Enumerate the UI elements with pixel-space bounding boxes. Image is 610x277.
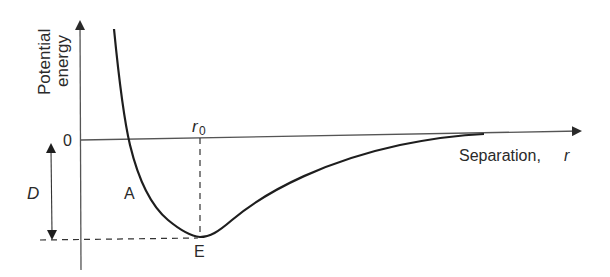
y-axis-label: Potential energy <box>35 29 72 95</box>
r0-label: r <box>192 117 199 136</box>
depth-arrow-bottom-head <box>47 230 57 240</box>
minimum-dashed-line <box>40 238 198 240</box>
r0-subscript: 0 <box>199 124 206 138</box>
point-a-label: A <box>124 185 135 202</box>
x-axis <box>81 131 580 140</box>
y-axis-label-line2: energy <box>53 35 72 87</box>
potential-curve <box>114 29 484 237</box>
y-axis-label-line1: Potential <box>35 29 54 95</box>
x-axis-symbol: r <box>564 147 570 164</box>
depth-arrow-top-head <box>46 143 56 153</box>
potential-energy-diagram: Potential energy 0 r 0 D A E Separation,… <box>0 0 610 277</box>
depth-label: D <box>27 184 39 203</box>
point-e-label: E <box>194 243 205 260</box>
x-axis-label: Separation, <box>459 147 541 164</box>
depth-arrow <box>51 150 52 233</box>
y-axis <box>80 22 81 270</box>
zero-label: 0 <box>63 132 72 149</box>
